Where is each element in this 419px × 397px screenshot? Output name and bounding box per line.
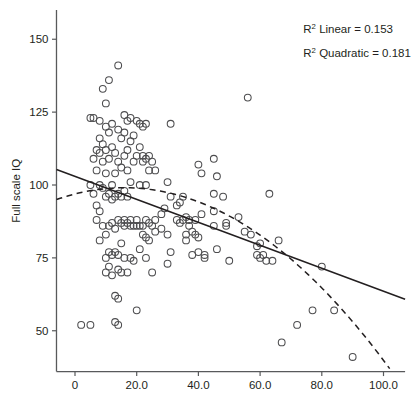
data-point [99,85,106,92]
data-point [121,129,128,136]
data-point [278,339,285,346]
data-point [93,217,100,224]
data-point [331,307,338,314]
data-point [87,322,94,329]
data-point [143,254,150,261]
data-point [102,100,109,107]
y-tick-label: 50 [36,325,49,337]
data-point [106,155,113,162]
y-tick-label: 100 [29,179,48,191]
data-point [106,129,113,136]
data-point [118,240,125,247]
data-point [235,214,242,221]
data-point [127,179,134,186]
data-point [167,120,174,127]
data-point [247,231,254,238]
x-tick-label: 0 [72,379,78,391]
data-point [309,307,316,314]
data-point [109,272,116,279]
data-point [106,263,113,270]
data-point [149,269,156,276]
x-tick-label: 100.0 [369,379,398,391]
data-point [294,322,301,329]
data-point [90,155,97,162]
x-tick-label: 60.0 [249,379,271,391]
data-point [102,170,109,177]
quadratic-fit-curve [56,188,389,369]
data-point [210,155,217,162]
data-point [198,170,205,177]
data-point [112,170,119,177]
data-point [130,132,137,139]
data-point [244,94,251,101]
data-point [124,167,131,174]
data-point [275,237,282,244]
data-point [96,117,103,124]
y-tick-label: 75 [36,252,49,264]
data-point [78,322,85,329]
data-point [158,225,165,232]
data-point [210,190,217,197]
data-point [164,179,171,186]
data-point [198,211,205,218]
data-point [109,120,116,127]
data-point [266,190,273,197]
chart-canvas: 5075100125150020.040.060.080.0100.0Time … [0,0,419,397]
annotation-r2-linear: R2 Linear = 0.153 [303,22,393,35]
annotation-r2-quadratic: R2 Quadratic = 0.181 [303,46,411,59]
data-point [152,217,159,224]
data-point [102,231,109,238]
data-point [226,257,233,264]
data-point [136,246,143,253]
data-point [96,237,103,244]
data-point [164,260,171,267]
data-point [112,225,119,232]
data-point [149,158,156,165]
data-point [106,77,113,84]
data-point [124,147,131,154]
data-point [214,173,221,180]
y-axis-title: Full scale IQ [10,159,22,223]
y-tick-label: 125 [29,106,48,118]
y-tick-label: 150 [29,33,48,45]
data-point [220,193,227,200]
data-point [133,307,140,314]
data-point [93,167,100,174]
data-point [349,354,356,361]
data-point [115,62,122,69]
data-point [112,150,119,157]
x-tick-label: 40.0 [187,379,209,391]
scatter-points [78,62,356,360]
data-point [96,208,103,215]
data-point [195,161,202,168]
data-point [167,249,174,256]
scatter-plot-figure: 5075100125150020.040.060.080.0100.0Time … [0,0,419,397]
x-tick-label: 80.0 [311,379,333,391]
data-point [136,144,143,151]
data-point [214,246,221,253]
data-point [164,231,171,238]
x-tick-label: 20.0 [126,379,148,391]
data-point [90,190,97,197]
